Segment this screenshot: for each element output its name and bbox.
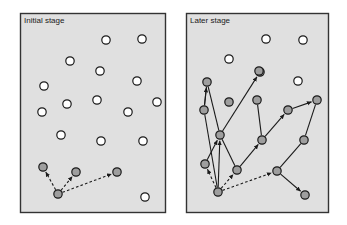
node-filled[interactable] — [300, 136, 308, 144]
node-open[interactable] — [38, 108, 46, 116]
node-filled[interactable] — [253, 96, 261, 104]
node-open[interactable] — [262, 35, 270, 43]
node-filled[interactable] — [203, 78, 211, 86]
panel-later: Later stage — [187, 14, 329, 213]
node-open[interactable] — [138, 35, 146, 43]
node-filled[interactable] — [200, 106, 208, 114]
node-open[interactable] — [97, 137, 105, 145]
node-open[interactable] — [133, 77, 141, 85]
node-filled[interactable] — [225, 98, 233, 106]
node-filled[interactable] — [233, 166, 241, 174]
panel-frame-later — [187, 14, 329, 213]
panel-initial: Initial stage — [21, 14, 166, 213]
panel-title-initial: Initial stage — [24, 16, 65, 25]
figure-root: Initial stageLater stage — [0, 0, 347, 225]
panel-title-later: Later stage — [190, 16, 231, 25]
node-filled[interactable] — [214, 188, 222, 196]
node-filled[interactable] — [273, 167, 281, 175]
node-filled[interactable] — [54, 190, 62, 198]
node-open[interactable] — [124, 108, 132, 116]
node-filled[interactable] — [301, 191, 309, 199]
node-filled[interactable] — [313, 96, 321, 104]
node-open[interactable] — [93, 96, 101, 104]
node-filled[interactable] — [284, 106, 292, 114]
node-filled[interactable] — [113, 168, 121, 176]
node-open[interactable] — [40, 82, 48, 90]
node-open[interactable] — [63, 100, 71, 108]
node-open[interactable] — [225, 55, 233, 63]
node-open[interactable] — [141, 193, 149, 201]
node-filled[interactable] — [39, 163, 47, 171]
node-open[interactable] — [102, 36, 110, 44]
node-filled[interactable] — [255, 67, 263, 75]
node-open[interactable] — [153, 98, 161, 106]
diagram-canvas: Initial stageLater stage — [0, 0, 347, 225]
node-open[interactable] — [299, 36, 307, 44]
node-open[interactable] — [57, 131, 65, 139]
node-open[interactable] — [66, 57, 74, 65]
node-filled[interactable] — [201, 160, 209, 168]
node-filled[interactable] — [72, 168, 80, 176]
node-filled[interactable] — [216, 131, 224, 139]
node-filled[interactable] — [258, 136, 266, 144]
node-open[interactable] — [139, 137, 147, 145]
node-open[interactable] — [96, 67, 104, 75]
node-open[interactable] — [294, 77, 302, 85]
